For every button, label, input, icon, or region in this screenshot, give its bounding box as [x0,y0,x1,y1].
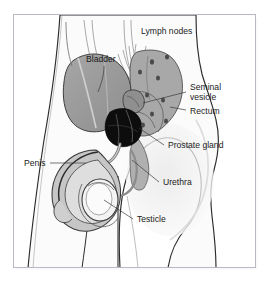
anatomy-diagram: Lymph nodes Bladder Seminal vesicle Rect… [0,0,269,283]
label-bladder: Bladder [86,54,116,64]
prostate-gland-organ [105,109,142,147]
lymph-node [164,119,168,124]
label-urethra: Urethra [163,177,192,187]
lymph-node [145,93,149,98]
lymph-node [138,70,142,75]
lymph-node [150,112,154,117]
label-seminal-vesicle-line2: vesicle [190,92,216,102]
anatomy-figure: Lymph nodes Bladder Seminal vesicle Rect… [0,0,269,283]
lymph-node [141,123,145,128]
label-rectum: Rectum [190,106,220,116]
label-penis: Penis [24,158,46,168]
lymph-node [156,76,160,81]
label-prostate-gland: Prostate gland [168,140,224,150]
label-lymph-nodes: Lymph nodes [141,26,192,36]
testicle-inner [86,183,112,215]
lymph-node [165,54,169,59]
label-seminal-vesicle-line1: Seminal [190,82,221,92]
lymph-node [150,59,154,64]
label-testicle: Testicle [137,214,166,224]
